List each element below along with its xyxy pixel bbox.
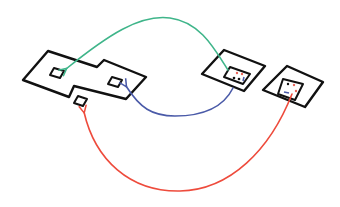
green-arrow <box>66 18 228 70</box>
port-bottom <box>74 96 87 106</box>
dot-red <box>241 73 243 75</box>
right-component-outer <box>263 66 323 107</box>
dot-red <box>293 84 295 86</box>
dot-black <box>233 77 236 80</box>
right-component <box>263 66 323 107</box>
dot-red <box>295 90 297 92</box>
red-arrow <box>84 94 292 191</box>
dot-red <box>236 72 238 74</box>
blue-arrow <box>126 86 233 116</box>
dot-blue <box>284 92 289 93</box>
dot-black <box>287 83 289 85</box>
port-right <box>108 77 122 87</box>
port-left <box>50 68 64 78</box>
dot-black <box>238 78 241 81</box>
middle-component <box>202 50 265 91</box>
large-component-outline <box>23 51 146 99</box>
diagram-canvas <box>0 0 340 207</box>
large-component <box>23 51 146 106</box>
dot-blue <box>243 77 244 81</box>
middle-component-outer <box>202 50 265 91</box>
diagram-svg <box>0 0 340 207</box>
